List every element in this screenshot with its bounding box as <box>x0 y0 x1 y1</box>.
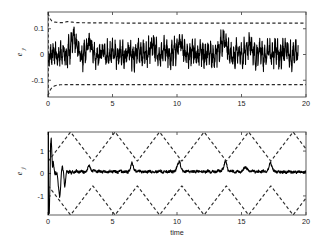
x-tick-label: 15 <box>238 99 246 108</box>
x-axis-title: time <box>170 228 184 237</box>
signal-trace-ey <box>48 27 298 72</box>
y-axis-label: ey <box>15 48 26 57</box>
y-axis-label-main: e <box>15 52 24 56</box>
x-tick-label: 10 <box>173 99 181 108</box>
lower-bound-trace <box>48 186 306 215</box>
chart-panel-top: 051015200.10-0.1ey <box>0 0 326 124</box>
y-axis-label-main: e <box>15 171 24 175</box>
x-tick-label: 20 <box>302 217 310 226</box>
chart-svg-bottom: 0510152010-1eẏtime <box>0 124 326 248</box>
x-tick-label: 0 <box>46 217 50 226</box>
chart-panel-bottom: 0510152010-1eẏtime <box>0 124 326 248</box>
x-tick-label: 15 <box>238 217 246 226</box>
chart-svg-top: 051015200.10-0.1ey <box>0 0 326 124</box>
y-tick-label: 0 <box>40 50 44 59</box>
x-tick-label: 5 <box>111 217 115 226</box>
y-tick-label: -0.1 <box>32 76 44 85</box>
x-tick-label: 5 <box>111 99 115 108</box>
y-tick-label: -1 <box>38 192 44 201</box>
y-tick-label: 0 <box>40 169 44 178</box>
signal-trace-eydot <box>48 138 306 213</box>
upper-bound-trace <box>48 132 306 161</box>
x-tick-label: 10 <box>173 217 181 226</box>
y-axis-label: eẏ <box>15 167 26 176</box>
figure-canvas: 051015200.10-0.1ey 0510152010-1eẏtime <box>0 0 326 248</box>
y-tick-label: 1 <box>40 147 44 156</box>
x-tick-label: 0 <box>46 99 50 108</box>
x-tick-label: 20 <box>302 99 310 108</box>
y-axis-label-subscript: ẏ <box>20 167 26 171</box>
y-tick-label: 0.1 <box>34 24 44 33</box>
y-axis-label-subscript: y <box>20 48 26 52</box>
